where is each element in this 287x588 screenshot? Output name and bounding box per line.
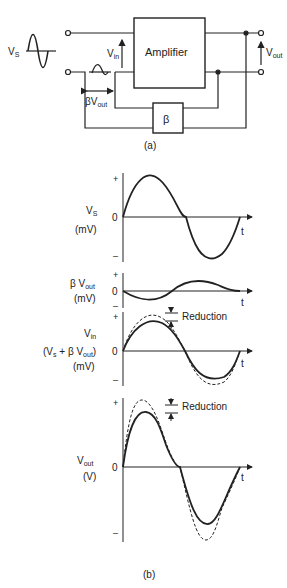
- caption-a: (a): [144, 140, 156, 151]
- svg-text:t: t: [241, 358, 244, 369]
- svg-text:βVout: βVout: [85, 96, 107, 108]
- svg-text:0: 0: [112, 462, 118, 473]
- svg-text:β Vout: β Vout: [70, 278, 95, 290]
- plot-vout: + 0 – t Reduction Vout (V): [77, 398, 252, 542]
- feedback-amplifier-figure: VS Vin Amplifier β Vout βVout (a) + 0 – …: [0, 0, 287, 588]
- svg-text:+: +: [113, 174, 118, 184]
- svg-text:t: t: [241, 472, 244, 483]
- caption-b: (b): [143, 569, 155, 580]
- svg-text:Vout: Vout: [266, 47, 282, 59]
- svg-text:(mV): (mV): [73, 361, 95, 372]
- plot-vin: + 0 – t Reduction Vin (Vs + β Vout) (mV): [43, 307, 252, 386]
- svg-text:0: 0: [112, 286, 118, 297]
- svg-text:t: t: [241, 226, 244, 237]
- svg-text:(mV): (mV): [75, 224, 97, 235]
- block-diagram: [26, 18, 264, 133]
- svg-text:(V): (V): [83, 471, 96, 482]
- svg-text:–: –: [113, 301, 118, 311]
- svg-text:–: –: [113, 528, 118, 538]
- block-diagram-labels: VS Vin Amplifier β Vout βVout (a): [8, 46, 282, 151]
- svg-text:0: 0: [112, 212, 118, 223]
- svg-text:0: 0: [112, 346, 118, 357]
- beta-label: β: [163, 113, 169, 125]
- svg-text:VS: VS: [8, 46, 20, 58]
- reduction-label: Reduction: [182, 401, 227, 412]
- svg-text:–: –: [113, 251, 118, 261]
- svg-text:+: +: [113, 312, 118, 322]
- svg-text:Vin: Vin: [84, 328, 96, 340]
- svg-text:+: +: [113, 270, 118, 280]
- svg-text:VS: VS: [86, 205, 98, 217]
- svg-text:+: +: [113, 398, 118, 408]
- svg-text:(Vs + β Vout): (Vs + β Vout): [43, 346, 96, 358]
- svg-text:Vin: Vin: [107, 48, 119, 60]
- plot-vs: + 0 – t VS (mV): [75, 173, 252, 262]
- svg-text:t: t: [241, 297, 244, 308]
- reduction-label: Reduction: [182, 311, 227, 322]
- svg-text:–: –: [113, 375, 118, 385]
- plot-beta-vout: + 0 – t β Vout (mV): [70, 270, 252, 311]
- svg-text:Vout: Vout: [77, 455, 93, 467]
- svg-text:(mV): (mV): [74, 293, 96, 304]
- amplifier-label: Amplifier: [145, 46, 188, 58]
